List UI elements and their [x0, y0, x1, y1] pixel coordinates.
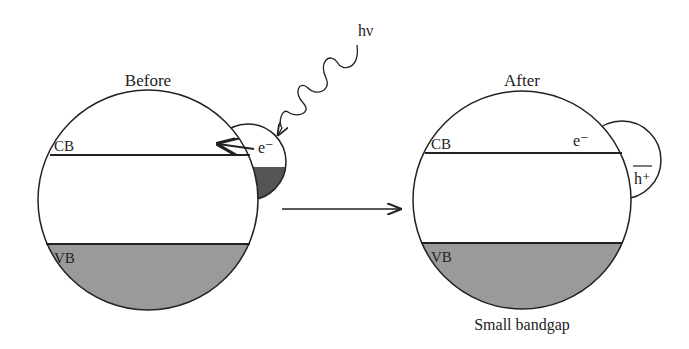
after-title: After — [504, 71, 540, 90]
electron-label: e⁻ — [258, 139, 274, 156]
vb-label: VB — [54, 250, 75, 266]
photon-wave-icon — [278, 45, 357, 135]
hole-label: h⁺ — [634, 170, 650, 187]
cb-label: CB — [54, 138, 74, 154]
before-title: Before — [125, 71, 171, 90]
before-panel: Before CB VB e⁻ hν — [30, 22, 373, 324]
photon-label: hν — [358, 22, 373, 39]
caption: Small bandgap — [474, 316, 570, 334]
electron-label: e⁻ — [573, 132, 589, 149]
vb-label: VB — [431, 249, 452, 265]
after-panel: After CB VB e⁻ h⁺ Small bandgap — [400, 71, 661, 334]
bandgap-diagram: Before CB VB e⁻ hν After CB VB e⁻ — [0, 0, 689, 349]
cb-label: CB — [431, 136, 451, 152]
